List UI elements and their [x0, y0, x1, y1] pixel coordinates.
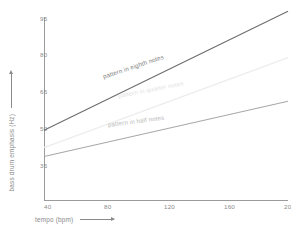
x-axis-title-group: tempo (bpm): [35, 216, 114, 223]
y-axis-title-group: bass drum emphasis (Hz): [8, 74, 15, 191]
y-axis-title: bass drum emphasis (Hz): [8, 114, 15, 191]
line-chart: 95 80 65 50 35 40 80 120 160 200 pattern…: [0, 0, 291, 235]
x-axis-title: tempo (bpm): [35, 216, 73, 223]
arrow-right-icon: [80, 219, 114, 220]
arrow-up-icon: [11, 74, 12, 108]
series-line-half: [44, 101, 288, 156]
